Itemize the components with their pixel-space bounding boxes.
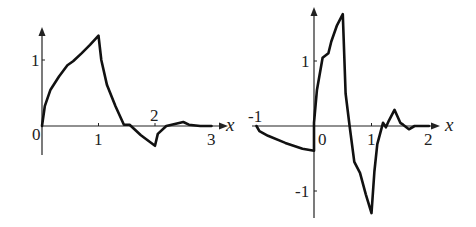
right-x-arrow-icon [431,123,440,130]
right-xtick-label-1: 1 [367,130,376,149]
left-xtick-label-1: 1 [94,130,103,149]
right-xtick-label-2: 2 [424,130,433,149]
right-curve [257,14,430,213]
left-origin-label: 0 [32,125,41,144]
left-curve [42,36,212,146]
left-xtick-label-3: 3 [207,130,216,149]
right-ytick-label-1: 1 [301,52,310,71]
right-x-axis-label: x [444,114,454,135]
left-xtick-label-2: 2 [150,106,159,125]
right-xtick-label-m1: -1 [248,107,262,126]
left-x-axis-label: x [225,114,235,135]
left-ytick-label-1: 1 [31,51,40,70]
right-ytick-label-m1: -1 [295,182,309,201]
right-plot: -1 0 1 2 1 -1 x [248,7,454,218]
right-origin-label: 0 [318,130,327,149]
left-y-arrow-icon [39,27,46,36]
right-y-arrow-icon [311,7,318,16]
figure: 0 1 2 3 1 x -1 0 1 2 1 -1 x [0,0,476,227]
left-plot: 0 1 2 3 1 x [31,27,235,155]
